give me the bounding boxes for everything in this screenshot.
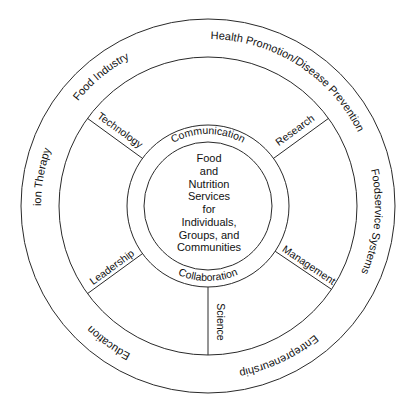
outer-label-entrepreneurship: Entrepreneurship <box>239 333 321 380</box>
inner-ring-label-bottom: Collaboration <box>177 265 239 283</box>
center-text: Food and Nutrition Services for Individu… <box>177 152 242 253</box>
spoke-label-leadership: Leadership <box>87 247 136 287</box>
center-line: Communities <box>177 241 242 253</box>
collaboration-label: Collaboration <box>177 265 239 283</box>
outer-label-food-industry: Food Industry <box>70 50 131 103</box>
foodservice-systems-label: Foodservice Systems <box>359 167 385 276</box>
center-line: Services <box>188 190 231 202</box>
center-line: and <box>200 165 218 177</box>
entrepreneurship-label: Entrepreneurship <box>239 333 321 380</box>
center-line: Groups, and <box>179 229 240 241</box>
outer-label-foodservice: Foodservice Systems <box>359 167 385 276</box>
center-line: Nutrition <box>189 178 230 190</box>
nutrition-therapy-label: Nutrition Therapy <box>0 0 53 206</box>
center-line: Food <box>196 152 221 164</box>
center-line: for <box>203 203 216 215</box>
nutrition-services-diagram: Technology Research Management Science L… <box>0 0 417 406</box>
spoke-label-science: Science <box>215 303 227 341</box>
center-line: Individuals, <box>181 216 236 228</box>
spoke-label-management: Management <box>280 243 338 287</box>
outer-label-nutrition-therapy: Nutrition Therapy <box>0 0 53 206</box>
food-industry-label: Food Industry <box>70 50 131 103</box>
